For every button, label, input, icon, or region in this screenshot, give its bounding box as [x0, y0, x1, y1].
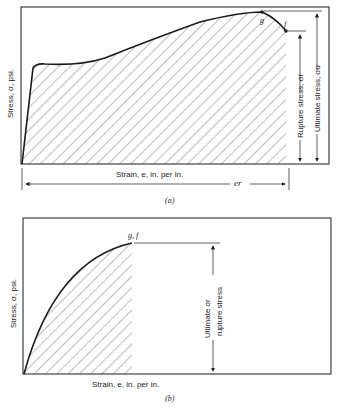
energy-area-b [24, 243, 132, 374]
y-axis-label-b: Stress, σ, psi. [9, 279, 18, 328]
strain-rupture-label: er [234, 178, 242, 188]
ultimate-stress-label: Ultimate stress, σu [313, 65, 322, 132]
point-f-marker [284, 29, 288, 33]
caption-a: (a) [165, 196, 175, 205]
figure-a: g f Rupture stress, σr Ultimate stress, … [6, 7, 329, 205]
point-g-label: g [260, 16, 264, 25]
point-g-marker [260, 10, 264, 14]
x-axis-label-a: Strain, e, in. per in. [116, 170, 183, 179]
point-f-label: f [284, 20, 288, 29]
y-axis-label-a: Stress, σ, psi. [6, 69, 15, 118]
rupture-stress-label: Rupture stress, σr [296, 74, 305, 138]
ultimate-rupture-label-line1: Ultimate or [203, 299, 212, 338]
energy-area-a [22, 12, 286, 164]
caption-b: (b) [165, 394, 175, 403]
figure-b: g, f Ultimate or rupture stress Stress, … [9, 218, 331, 403]
x-axis-label-b: Strain, e, in. per in. [92, 380, 159, 389]
stress-strain-figure: g f Rupture stress, σr Ultimate stress, … [0, 0, 337, 412]
ultimate-rupture-label-line2: rupture stress [215, 287, 224, 336]
point-gf-label: g, f [128, 231, 140, 240]
